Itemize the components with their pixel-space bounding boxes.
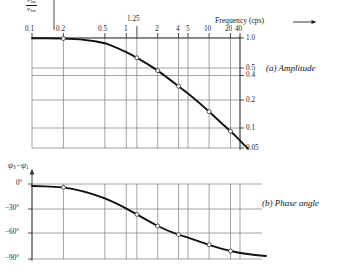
x-tick-label-2: 2 xyxy=(155,26,159,33)
phase-horizontal-gridlines xyxy=(32,184,262,259)
data-point-marker xyxy=(229,129,233,133)
phase-y-tick-m60: −60° xyxy=(5,229,19,236)
amplitude-curve xyxy=(32,38,248,148)
phase-y-tick-m30: −30° xyxy=(5,205,19,212)
x-tick-label-4: 4 xyxy=(176,26,180,33)
amplitude-y-tick-1-0: 1.0 xyxy=(246,35,255,42)
phase-y-tick-m90: −90° xyxy=(5,255,19,262)
phase-vertical-gridlines xyxy=(32,184,240,259)
x-tick-label-5: 5 xyxy=(186,26,190,33)
x-tick-label-1: 1 xyxy=(124,26,128,33)
figure-canvas xyxy=(0,0,344,274)
x-tick-label-40: 40 xyxy=(235,26,242,33)
x-tick-label-10: 10 xyxy=(204,26,211,33)
data-point-marker xyxy=(135,212,139,216)
phase-curve xyxy=(32,186,266,256)
x-tick-label-20: 20 xyxy=(225,26,232,33)
data-point-marker xyxy=(177,84,181,88)
x-tick-label-0-5: 0.5 xyxy=(98,26,107,33)
amplitude-label-denominator: v1m xyxy=(26,6,37,13)
caption-amplitude: (a) Amplitude xyxy=(266,64,316,73)
amplitude-label-numerator: v3m xyxy=(26,0,37,4)
data-point-marker xyxy=(207,110,211,114)
phase-axis-label: ψ3−ψ1 xyxy=(8,161,29,170)
phase-y-tick-0: 0° xyxy=(16,180,22,187)
data-point-marker xyxy=(156,69,160,73)
phase-plot xyxy=(28,169,266,261)
amplitude-right-tickmarks xyxy=(240,38,244,148)
frequency-response-figure: v3m v1m Frequency (cps) 1.25 0.1 0.2 0.5… xyxy=(0,0,344,274)
x-tick-label-0-1: 0.1 xyxy=(25,26,34,33)
phase-left-tickmarks xyxy=(28,184,32,259)
amplitude-data-markers xyxy=(61,37,232,134)
data-point-marker xyxy=(177,233,181,237)
data-point-marker xyxy=(207,243,211,247)
data-point-marker xyxy=(61,185,65,189)
amplitude-y-tick-0-05: 0.05 xyxy=(246,145,259,152)
data-point-marker xyxy=(135,56,139,60)
phase-axis-arrowhead xyxy=(30,169,35,175)
amplitude-vertical-gridlines xyxy=(32,38,240,148)
caption-phase-angle: (b) Phase angle xyxy=(262,199,319,208)
data-point-marker xyxy=(156,224,160,228)
frequency-arrowhead xyxy=(312,20,317,24)
amplitude-y-tick-0-2: 0.2 xyxy=(246,97,255,104)
amplitude-axis-label: v3m v1m xyxy=(26,0,37,13)
amplitude-y-tick-0-4: 0.4 xyxy=(246,72,255,79)
amplitude-y-tick-0-1: 0.1 xyxy=(246,125,255,132)
x-tick-label-0-2: 0.2 xyxy=(56,26,65,33)
frequency-axis-title: Frequency (cps) xyxy=(215,17,264,25)
data-point-marker xyxy=(61,37,65,41)
special-tick-label-1-25: 1.25 xyxy=(127,16,140,23)
data-point-marker xyxy=(229,249,233,253)
